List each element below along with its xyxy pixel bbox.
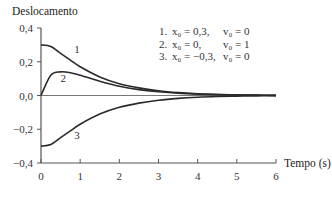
x-tick-label: 5 (234, 170, 240, 182)
y-tick-label: −0,4 (13, 157, 33, 169)
legend-num: 3. (159, 50, 167, 63)
legend-x0: x₀ = 0,3, (172, 25, 210, 38)
y-tick-label: 0,4 (19, 22, 33, 34)
y-axis-title: Deslocamento (12, 5, 78, 17)
x-tick-label: 3 (156, 170, 162, 182)
x-tick-label: 0 (38, 170, 44, 182)
curve-label-2: 2 (61, 72, 66, 84)
legend-x0: x₀ = 0, (172, 38, 201, 51)
legend-v0: v₀ = 0 (223, 25, 250, 38)
x-axis-title: Tempo (s) (284, 157, 331, 170)
curve-label-1: 1 (74, 43, 80, 55)
legend-v0: v₀ = 0 (223, 50, 250, 63)
y-tick-label: 0,2 (19, 56, 33, 68)
x-tick-label: 6 (273, 170, 279, 182)
y-tick-label: −0,2 (13, 123, 33, 135)
x-tick-label: 4 (195, 170, 201, 182)
x-tick-label: 2 (117, 170, 123, 182)
legend-num: 2. (159, 38, 167, 51)
curve-2 (41, 72, 276, 96)
legend-v0: v₀ = 1 (223, 38, 250, 51)
legend-x0: x₀ = −0,3, (172, 50, 216, 63)
curve-label-3: 3 (74, 129, 80, 141)
x-tick-label: 1 (77, 170, 83, 182)
legend-num: 1. (159, 25, 167, 38)
y-tick-label: 0,0 (19, 90, 33, 102)
